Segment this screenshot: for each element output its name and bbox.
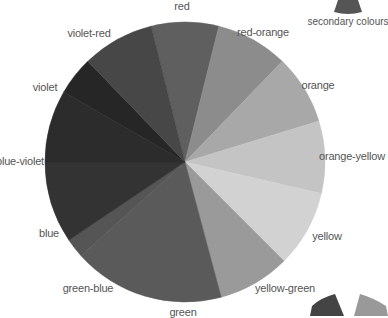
label-violet: violet: [33, 81, 57, 93]
label-red-orange: red-orange: [237, 26, 289, 38]
label-violet-red: violet-red: [67, 27, 110, 39]
label-red: red: [174, 0, 189, 12]
swatch-light-icon: [354, 294, 388, 316]
label-blue-violet: blue-violet: [0, 155, 44, 167]
bottom-swatches: [300, 288, 388, 316]
secondary-colours-legend: secondary colours: [308, 0, 388, 30]
secondary-colours-label: secondary colours: [308, 16, 388, 27]
label-yellow: yellow: [312, 230, 341, 242]
label-green-blue: green-blue: [63, 282, 114, 294]
label-blue: blue: [39, 227, 59, 239]
label-green: green: [169, 306, 196, 318]
label-orange-yellow: orange-yellow: [319, 150, 385, 162]
secondary-swatch-icon: [334, 0, 362, 14]
label-orange: orange: [301, 79, 334, 91]
swatch-dark-icon: [310, 294, 344, 316]
